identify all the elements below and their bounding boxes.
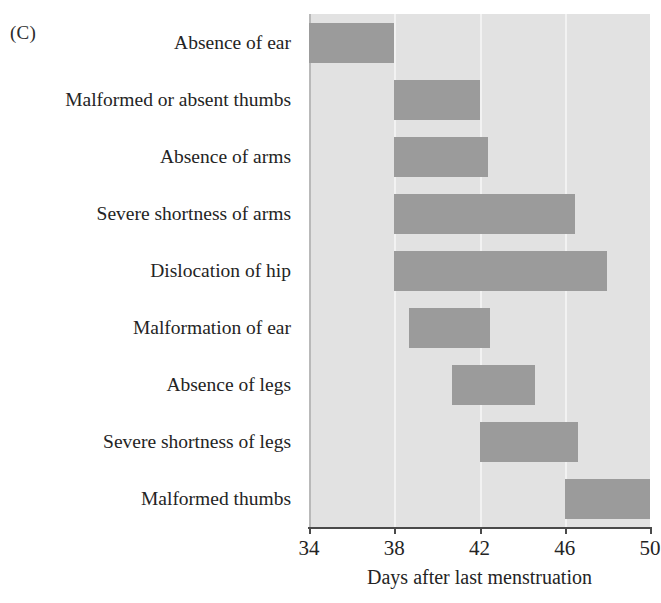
- x-axis-title: Days after last menstruation: [309, 566, 650, 589]
- range-bar: [480, 422, 578, 462]
- category-label: Severe shortness of arms: [0, 203, 300, 225]
- category-label: Severe shortness of legs: [0, 431, 300, 453]
- category-label: Absence of ear: [0, 32, 300, 54]
- x-axis-tick: [650, 527, 652, 534]
- range-bar: [394, 80, 479, 120]
- x-axis-tick: [309, 527, 311, 534]
- range-bar: [409, 308, 490, 348]
- range-bar: [309, 23, 394, 63]
- x-axis-tick-label: 46: [554, 536, 575, 561]
- range-bar: [394, 137, 488, 177]
- category-label: Dislocation of hip: [0, 260, 300, 282]
- x-axis-tick: [565, 527, 567, 534]
- range-bar: [394, 251, 607, 291]
- x-axis-tick-label: 50: [640, 536, 661, 561]
- plot-area: [309, 14, 650, 527]
- range-bar: [452, 365, 535, 405]
- category-label: Malformed thumbs: [0, 488, 300, 510]
- x-axis-tick-label: 42: [469, 536, 490, 561]
- range-bar: [394, 194, 575, 234]
- category-axis-labels: Absence of earMalformed or absent thumbs…: [0, 14, 300, 527]
- x-axis-tick: [480, 527, 482, 534]
- category-label: Malformed or absent thumbs: [0, 89, 300, 111]
- category-label: Absence of arms: [0, 146, 300, 168]
- range-bar: [565, 479, 650, 519]
- category-label: Malformation of ear: [0, 317, 300, 339]
- category-label: Absence of legs: [0, 374, 300, 396]
- x-axis-tick-label: 34: [299, 536, 320, 561]
- x-axis-tick: [394, 527, 396, 534]
- x-axis-tick-label: 38: [384, 536, 405, 561]
